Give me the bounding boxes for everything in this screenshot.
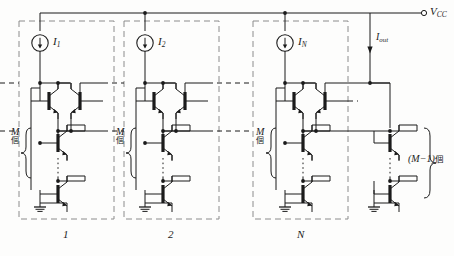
cell-boundary-n	[253, 21, 348, 219]
cell-index-label-1: 1	[63, 228, 69, 240]
output-stack-circuit	[368, 125, 436, 212]
iout-arrow	[367, 31, 390, 128]
cell-boundary-2	[124, 21, 219, 219]
cell-2-circuit	[136, 81, 208, 212]
m-brace-1	[21, 128, 31, 178]
current-source-n	[277, 35, 293, 83]
m-brace-2	[126, 128, 136, 178]
vcc-rail	[40, 10, 427, 31]
vcc-label: VCC	[430, 5, 447, 19]
iout-label: Iout	[376, 31, 388, 43]
cell-n-circuit	[276, 81, 390, 212]
m-count-label-1: M個	[11, 127, 19, 145]
output-stack-label: (M−1)個	[408, 152, 444, 164]
m-count-label-n: M個	[256, 127, 264, 145]
m-brace-n	[266, 128, 276, 178]
m-count-label-2: M個	[116, 127, 124, 145]
circuit-figure: VCC I1 I2 IN Iout M個 M個 M個 (M−1)個 1 2 N	[0, 0, 454, 256]
current-source-1-label: I1	[53, 35, 60, 49]
current-source-1	[32, 35, 48, 83]
cell-1-circuit	[31, 81, 103, 212]
cell-index-label-2: 2	[168, 228, 174, 240]
current-source-2-label: I2	[158, 35, 165, 49]
current-source-n-label: IN	[298, 35, 307, 49]
cell-boundary-1	[19, 21, 114, 219]
current-source-2	[137, 35, 153, 83]
cell-index-label-n: N	[297, 228, 304, 240]
